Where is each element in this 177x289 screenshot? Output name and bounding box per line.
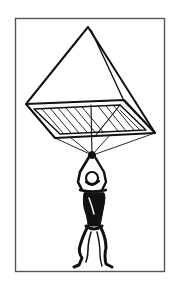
- illustration: [0, 0, 177, 289]
- person-figure-icon: [74, 152, 112, 268]
- parachute-icon: [26, 27, 155, 155]
